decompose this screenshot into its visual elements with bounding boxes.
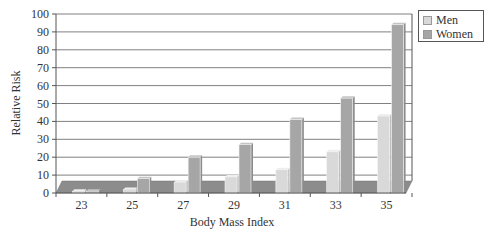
y-axis-title: Relative Risk	[9, 71, 23, 136]
legend-item-men: Men	[423, 13, 479, 27]
legend-label: Women	[436, 27, 473, 42]
x-tick-label: 35	[381, 198, 393, 212]
men-swatch-icon	[423, 16, 432, 25]
bar-women-23	[86, 189, 100, 193]
x-tick-label: 23	[75, 198, 87, 212]
y-tick-label: 60	[37, 79, 49, 93]
y-tick-label: 20	[37, 150, 49, 164]
x-axis-title: Body Mass Index	[190, 215, 275, 229]
x-tick-label: 33	[330, 198, 342, 212]
y-tick-label: 70	[37, 61, 49, 75]
legend-item-women: Women	[423, 27, 479, 41]
legend: Men Women	[418, 10, 484, 42]
y-tick-label: 10	[37, 168, 49, 182]
gridlines	[56, 14, 412, 181]
bar-women-33	[341, 96, 355, 193]
bar-women-29	[239, 143, 253, 193]
women-swatch-icon	[423, 30, 432, 39]
y-tick-label: 90	[37, 25, 49, 39]
y-tick-label: 30	[37, 132, 49, 146]
x-tick-label: 31	[279, 198, 291, 212]
x-tick-label: 25	[126, 198, 138, 212]
bar-men-23	[72, 189, 86, 193]
x-axis-ticks: 23252729313335	[56, 193, 412, 212]
bar-men-35	[378, 114, 392, 193]
bar-women-35	[392, 23, 406, 193]
bar-women-31	[290, 118, 304, 193]
y-tick-label: 80	[37, 43, 49, 57]
bar-men-27	[174, 180, 188, 193]
legend-label: Men	[436, 13, 458, 28]
bar-men-31	[276, 168, 290, 193]
x-tick-label: 27	[177, 198, 189, 212]
bar-women-25	[137, 177, 151, 193]
x-tick-label: 29	[228, 198, 240, 212]
y-tick-label: 40	[37, 114, 49, 128]
bar-men-25	[123, 187, 137, 193]
bar-men-29	[225, 175, 239, 193]
y-tick-label: 0	[43, 186, 49, 200]
y-tick-label: 50	[37, 97, 49, 111]
y-tick-label: 100	[31, 7, 49, 21]
bar-men-33	[327, 150, 341, 193]
y-axis-ticks: 0102030405060708090100	[31, 7, 56, 200]
bars	[72, 23, 405, 193]
bar-women-27	[188, 155, 202, 193]
